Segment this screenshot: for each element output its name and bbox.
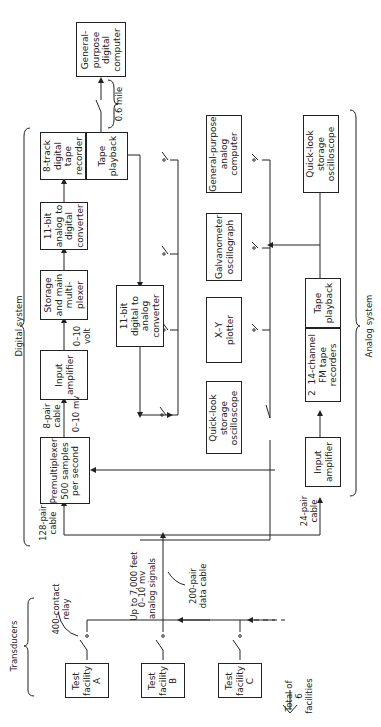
relay-400-contact: 400-contact relay [51, 582, 73, 636]
galvanometer-block: Galvanometer oscillograph [206, 213, 242, 281]
test-facility-b-block: Test facility B [141, 663, 185, 698]
analog-signals: 0–10 mv analog signals [137, 559, 159, 619]
cable-8-pair: 8-pair cable [42, 401, 64, 431]
digital-tape-recorder-block: 8-track digital tape recorder [40, 132, 86, 180]
xy-plotter-block: X–Y plotter [206, 297, 242, 363]
dac-label: 11-bit digital to analog converter [119, 294, 161, 338]
data-cable-200-pair: 200-pair data cable [188, 555, 210, 617]
input-amplifier-digital-block: Input amplifier [40, 350, 88, 400]
test-facility-c-label: Test facility C [224, 666, 256, 696]
cable-128-pair: 128-pair cable [38, 502, 60, 544]
galvanometer-label: Galvanometer oscillograph [214, 215, 235, 279]
test-facility-a-block: Test facility A [65, 663, 109, 698]
quicklook-digital-label: Quick-look storage oscilloscope [208, 390, 240, 445]
storage-mux-block: Storage and main multi- plexer [40, 270, 88, 320]
total-facilities: Total of 6 facilities [284, 676, 316, 716]
quicklook-digital-block: Quick-look storage oscilloscope [206, 381, 242, 454]
input-amplifier-analog-label: Input amplifier [313, 442, 334, 482]
digital-tape-playback-block: Tape playback [86, 132, 128, 180]
test-facility-a-label: Test facility A [71, 666, 103, 696]
quicklook-analog-label: Quick-look storage oscilloscope [305, 127, 337, 182]
analog-tape-playback-label: Tape playback [313, 283, 334, 323]
input-amplifier-digital-label: Input amplifier [54, 355, 75, 395]
analog-system-label: Analog system [364, 286, 376, 366]
cable-24-pair: 24-pair cable [299, 491, 321, 531]
fm-recorders-label: 2 14-channel FM tape recorders [307, 334, 339, 396]
dac-block: 11-bit digital to analog converter [116, 285, 164, 347]
adc-block: 11-bit analog to digital converter [40, 202, 88, 250]
test-facility-c-block: Test facility C [218, 663, 262, 698]
quicklook-analog-block: Quick-look storage oscilloscope [303, 115, 339, 193]
fm-recorders-block: 2 14-channel FM tape recorders [305, 328, 341, 402]
digital-tape-recorder-label: 8-track digital tape recorder [42, 137, 84, 175]
gp-analog-computer-label: General-purpose analog computer [208, 116, 240, 191]
digital-system-label: Digital system [14, 286, 26, 366]
gp-digital-computer-label: General- purpose digital computer [80, 28, 122, 71]
storage-mux-label: Storage and main multi- plexer [43, 274, 85, 316]
distance-0-6-mile: 0.6 mile [114, 84, 126, 124]
test-facility-b-label: Test facility B [147, 666, 179, 696]
analog-tape-playback-block: Tape playback [305, 278, 341, 328]
premultiplexer-block: Premultiplexer 500 samples per second [40, 437, 90, 504]
transducers-label: Transducers [9, 611, 21, 681]
volt-0-10: 0–10 volt [72, 321, 94, 351]
adc-label: 11-bit analog to digital converter [43, 204, 85, 248]
input-amplifier-analog-block: Input amplifier [305, 437, 341, 487]
premultiplexer-label: Premultiplexer 500 samples per second [49, 438, 81, 503]
gp-digital-computer-block: General- purpose digital computer [76, 22, 126, 77]
digital-tape-playback-label: Tape playback [97, 136, 118, 176]
xy-plotter-label: X–Y plotter [214, 315, 235, 345]
mv-0-10: 0–10 mv [71, 394, 83, 434]
gp-analog-computer-block: General-purpose analog computer [206, 115, 242, 193]
